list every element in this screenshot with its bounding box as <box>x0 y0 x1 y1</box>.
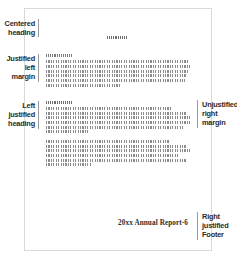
greek-line <box>46 121 190 124</box>
page-footer-text: 20xx Annual Report-6 <box>40 219 188 227</box>
annotation-line: justified <box>0 110 35 119</box>
greek-line <box>46 112 186 115</box>
annotation-line: left <box>0 63 35 72</box>
greek-line <box>46 149 192 152</box>
paragraph-block-two <box>46 107 192 135</box>
paragraph-block-one <box>46 54 192 88</box>
greek-line <box>46 79 185 82</box>
greek-line <box>46 101 72 104</box>
annotation-line: Justified <box>0 54 35 63</box>
annotation-line: Unjustified <box>202 100 237 109</box>
annotation-unjustified-right-margin: Unjustified right margin <box>197 100 237 128</box>
greek-line <box>46 140 170 143</box>
greek-line <box>46 65 192 68</box>
annotation-line: heading <box>0 28 35 37</box>
greek-line <box>46 74 187 77</box>
annotation-justified-left-margin: Justified left margin <box>0 54 39 82</box>
centered-heading-text <box>46 36 188 39</box>
annotation-line: Footer <box>202 230 237 239</box>
greek-line <box>46 107 172 110</box>
annotation-left-justified-heading: Left justified heading <box>0 101 39 129</box>
greek-line <box>46 126 184 129</box>
greek-line <box>107 36 128 39</box>
greek-line <box>46 145 186 148</box>
annotation-line: Centered <box>0 19 35 28</box>
annotation-line: heading <box>0 119 35 128</box>
greek-line <box>46 60 188 63</box>
annotation-line: right <box>202 109 237 118</box>
greek-line <box>46 130 88 133</box>
annotation-line: Right <box>202 212 237 221</box>
greek-line <box>46 163 92 166</box>
page-layout-diagram: 20xx Annual Report-6 Centered heading Ju… <box>0 0 237 266</box>
annotation-centered-heading: Centered heading <box>0 19 39 37</box>
annotation-line: Left <box>0 101 35 110</box>
annotation-line: justified <box>202 221 237 230</box>
greek-line <box>46 159 187 162</box>
paragraph-block-three <box>46 140 192 168</box>
greek-line <box>46 70 189 73</box>
greek-line <box>46 116 192 119</box>
annotation-right-justified-footer: Right justified Footer <box>197 212 237 240</box>
left-justified-heading-text <box>46 101 192 106</box>
greek-line <box>46 84 120 87</box>
greek-line <box>46 54 72 57</box>
greek-line <box>46 154 180 157</box>
annotation-line: margin <box>0 72 35 81</box>
annotation-line: margin <box>202 118 237 127</box>
